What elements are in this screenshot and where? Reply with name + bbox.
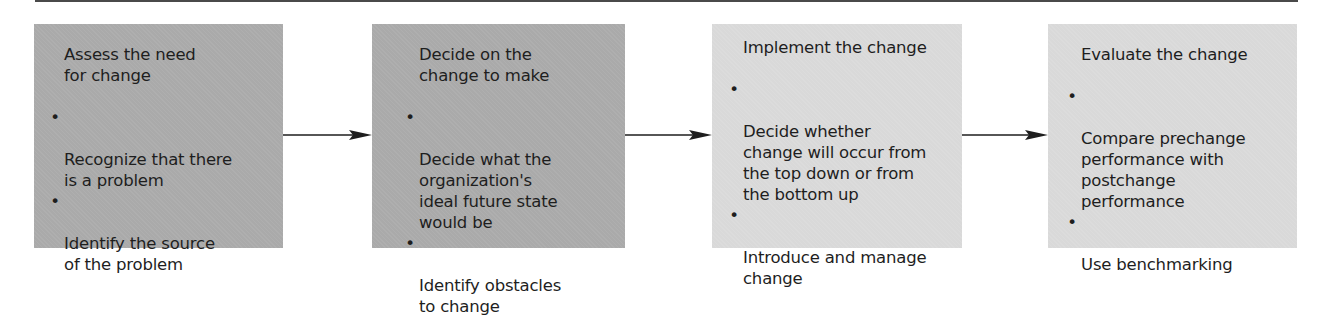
flow-arrow-1 <box>283 130 372 140</box>
step-box-decide: Decide on the change to make • Decide wh… <box>372 24 625 248</box>
step-bullet: • Identify the source of the problem <box>64 191 273 275</box>
step-bullet: • Decide what the organization's ideal f… <box>419 107 615 233</box>
bullet-dot-icon: • <box>728 205 740 226</box>
bullet-dot-icon: • <box>404 107 416 128</box>
bullet-text: Identify the source of the problem <box>64 234 215 274</box>
bullet-text: Introduce and manage change <box>743 248 926 288</box>
bullet-text: Identify obstacles to change <box>419 276 561 316</box>
step-bullet: • Recognize that there is a problem <box>64 107 273 191</box>
step-box-implement: Implement the change • Decide whether ch… <box>712 24 962 248</box>
bullet-text: Decide what the organization's ideal fut… <box>419 150 557 232</box>
bullet-dot-icon: • <box>728 79 740 100</box>
arrow-right-icon <box>625 130 712 140</box>
bullet-dot-icon: • <box>49 107 61 128</box>
step-title: Decide on the change to make <box>419 44 615 86</box>
step-box-assess: Assess the need for change • Recognize t… <box>34 24 283 248</box>
step-title: Assess the need for change <box>64 44 273 86</box>
bullet-text: Compare prechange performance with postc… <box>1081 129 1245 211</box>
flow-arrow-3 <box>962 130 1048 140</box>
step-bullet: • Compare prechange performance with pos… <box>1081 86 1287 212</box>
step-bullet-list: • Decide what the organization's ideal f… <box>419 107 615 317</box>
step-bullet-list: • Decide whether change will occur from … <box>743 79 952 289</box>
arrow-right-icon <box>283 130 372 140</box>
step-bullet: • Identify obstacles to change <box>419 233 615 317</box>
step-title: Implement the change <box>743 37 952 58</box>
bullet-dot-icon: • <box>1066 86 1078 107</box>
bullet-dot-icon: • <box>404 233 416 254</box>
step-bullet: • Introduce and manage change <box>743 205 952 289</box>
bullet-dot-icon: • <box>1066 212 1078 233</box>
step-title: Evaluate the change <box>1081 44 1287 65</box>
flow-arrow-2 <box>625 130 712 140</box>
bullet-text: Recognize that there is a problem <box>64 150 232 190</box>
top-rule-divider <box>35 0 1298 2</box>
bullet-text: Use benchmarking <box>1081 255 1233 274</box>
arrow-right-icon <box>962 130 1048 140</box>
step-bullet-list: • Compare prechange performance with pos… <box>1081 86 1287 275</box>
step-bullet: • Use benchmarking <box>1081 212 1287 275</box>
bullet-dot-icon: • <box>49 191 61 212</box>
bullet-text: Decide whether change will occur from th… <box>743 122 926 204</box>
step-bullet-list: • Recognize that there is a problem • Id… <box>64 107 273 275</box>
step-box-evaluate: Evaluate the change • Compare prechange … <box>1048 24 1297 248</box>
step-bullet: • Decide whether change will occur from … <box>743 79 952 205</box>
